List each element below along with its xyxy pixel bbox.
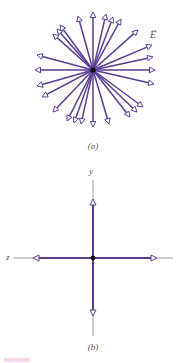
arrowhead-icon [37,54,43,59]
arrowhead-icon [79,118,84,124]
field-arrow [93,14,107,70]
arrowhead-icon [42,92,48,97]
field-arrow-left [33,255,93,261]
panel-a-caption: (a) [73,141,113,151]
arrowhead-icon [146,45,152,50]
field-arrow [93,19,121,70]
arrowhead-icon [148,80,154,85]
arrowhead-icon [147,55,153,60]
decorative-strip [4,358,30,362]
z-axis-label: z [6,252,10,262]
arrowhead-icon [90,122,96,128]
arrowhead-icon [116,19,121,25]
y-axis-label: y [89,166,93,176]
arrowhead-icon [73,117,78,123]
point-charge-a [90,67,95,72]
arrowhead-icon [67,115,72,121]
field-arrow-down [90,258,96,316]
arrowhead-icon [90,199,96,205]
electric-field-figure [0,0,183,363]
arrowhead-icon [77,16,82,22]
arrowhead-icon [90,12,96,18]
arrowhead-icon [37,82,43,87]
arrowhead-icon [90,310,96,316]
arrowhead-icon [150,67,156,73]
point-charge-b [91,256,96,261]
vector-arrow-icon: → [151,26,158,34]
arrowhead-icon [108,17,113,23]
electric-field-vector-label: → E [150,29,156,40]
field-arrow-right [93,255,157,261]
arrowhead-icon [151,255,157,261]
arrowhead-icon [35,67,41,73]
panel-b-caption: (b) [73,342,113,352]
arrowhead-icon [105,118,110,124]
arrowhead-icon [33,255,39,261]
field-arrow-up [90,199,96,258]
arrowhead-icon [102,14,107,20]
